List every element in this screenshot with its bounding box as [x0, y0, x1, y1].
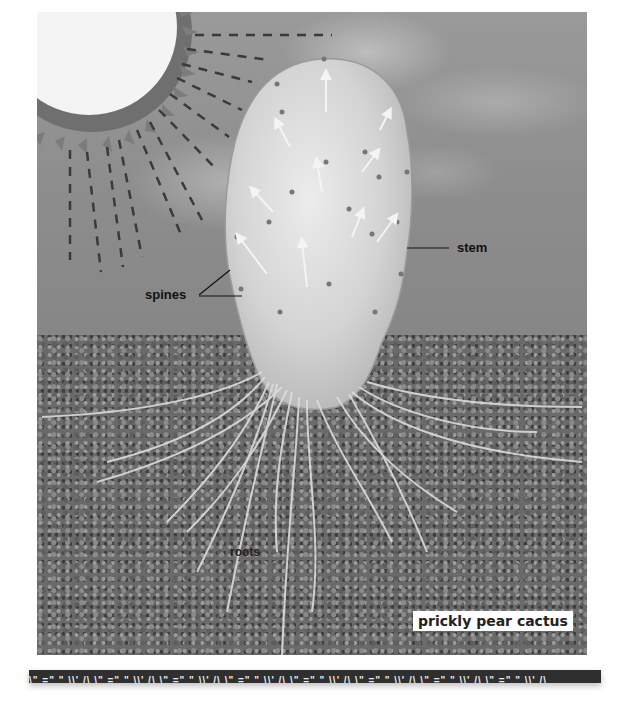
cactus-pad — [225, 57, 412, 410]
strip-pattern: \" =" " \\' /\ \" =" " \\' /\ \" =" " \\… — [29, 674, 547, 683]
illustration-layer — [37, 12, 587, 655]
diagram-scene: stem spines roots — [37, 12, 587, 655]
sun-icon — [37, 12, 199, 154]
diagram-caption: prickly pear cactus — [413, 611, 573, 631]
decorative-strip: \" =" " \\' /\ \" =" " \\' /\ \" =" " \\… — [29, 670, 601, 683]
label-roots: roots — [230, 545, 260, 559]
label-spines: spines — [145, 287, 186, 302]
label-stem: stem — [457, 240, 487, 255]
